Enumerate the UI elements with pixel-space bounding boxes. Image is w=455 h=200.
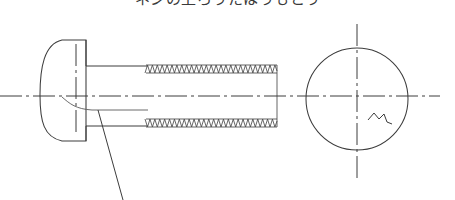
thread-flanks-upper xyxy=(145,65,277,73)
leader-line xyxy=(98,110,123,200)
bolt-drawing-svg xyxy=(0,0,455,200)
head-fillet-curve xyxy=(62,97,148,110)
break-squiggle xyxy=(368,113,392,124)
technical-drawing: ネジの上ろうたはうもとう xyxy=(0,0,455,200)
thread-flanks-lower xyxy=(145,119,277,127)
centerlines xyxy=(0,24,440,178)
dome-head-outline xyxy=(40,40,86,141)
